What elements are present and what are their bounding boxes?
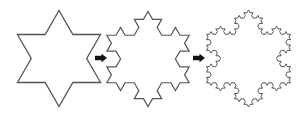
arrow-shape bbox=[95, 54, 107, 62]
koch-snowflake-iteration-2 bbox=[107, 12, 189, 107]
koch-snowflake-diagram bbox=[0, 0, 306, 116]
right-arrow-icon bbox=[95, 54, 107, 62]
koch-snowflake-iteration-3 bbox=[207, 10, 291, 107]
arrow-shape bbox=[193, 54, 205, 62]
right-arrow-icon bbox=[193, 54, 205, 62]
koch-snowflake-iteration-1 bbox=[17, 11, 100, 107]
